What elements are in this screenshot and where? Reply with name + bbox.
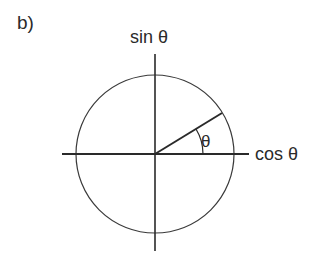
panel-label: b) <box>17 13 34 32</box>
radius-line <box>155 113 222 154</box>
cos-axis-label: cos θ <box>255 145 298 163</box>
sin-axis-label: sin θ <box>130 28 168 46</box>
angle-label: θ <box>201 133 210 150</box>
